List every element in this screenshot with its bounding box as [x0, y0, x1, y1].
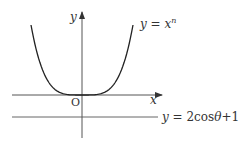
origin-label: O: [71, 96, 80, 109]
curve-label-eq: =: [147, 17, 165, 31]
line-label-cos: 2cos: [186, 110, 214, 124]
x-axis-label: x: [150, 93, 157, 107]
y-axis-label: y: [69, 10, 77, 24]
line-label: y = 2cosθ+1: [161, 110, 239, 124]
curve-label: y = xn: [139, 16, 176, 31]
line-label-tail: +1: [221, 110, 239, 124]
line-label-eq: =: [169, 110, 187, 124]
curve-label-exponent: n: [171, 16, 176, 25]
diagram-canvas: y x O y = xn y = 2cosθ+1: [0, 0, 250, 141]
